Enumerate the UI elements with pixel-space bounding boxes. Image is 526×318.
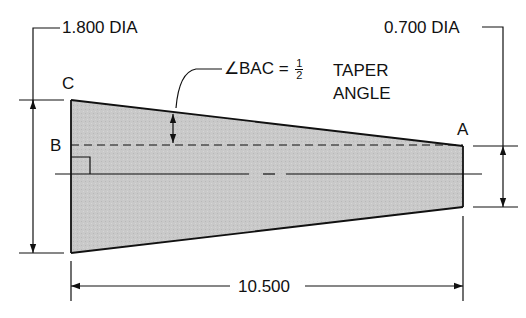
point-b-label: B <box>50 137 61 154</box>
small-diameter-label: 0.700 DIA <box>384 19 460 36</box>
angle-label: ∠BAC = <box>224 59 289 78</box>
angle-word-label: ANGLE <box>333 85 391 102</box>
angle-leader <box>176 69 222 108</box>
fraction-denominator: 2 <box>295 70 303 81</box>
small-diameter-dimension <box>473 27 518 207</box>
angle-annotation: ∠BAC = 1 2 <box>224 58 305 81</box>
length-label: 10.500 <box>238 278 290 295</box>
point-c-label: C <box>62 75 74 92</box>
half-fraction: 1 2 <box>295 58 303 81</box>
taper-label: TAPER <box>333 62 388 79</box>
point-a-label: A <box>457 121 468 138</box>
taper-drawing <box>0 0 526 318</box>
large-diameter-label: 1.800 DIA <box>62 19 138 36</box>
